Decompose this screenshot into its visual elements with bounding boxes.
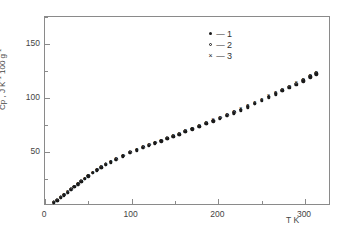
data-point: × (294, 80, 299, 85)
data-point: × (177, 131, 182, 136)
data-point: × (114, 156, 119, 161)
data-point: × (140, 144, 145, 149)
data-point: × (314, 69, 319, 74)
data-point: × (190, 125, 195, 130)
data-point: × (159, 137, 164, 142)
data-point: × (165, 135, 170, 140)
data-point: × (245, 103, 250, 108)
legend-entry-3: × — 3 (206, 50, 232, 61)
data-point: × (197, 123, 202, 128)
x-tick-label: 0 (42, 209, 47, 219)
data-point: × (266, 93, 271, 98)
data-point: × (238, 106, 243, 111)
data-point: × (211, 117, 216, 122)
y-tick-label: 150 (26, 38, 40, 48)
y-axis-title-prefix: Cp , J K (0, 82, 7, 110)
data-point: × (301, 76, 306, 81)
data-point: × (134, 146, 139, 151)
y-axis-title: Cp , J K-1 100 g-1 (0, 49, 7, 110)
legend-entry-1: — 1 (206, 28, 232, 39)
series-3: ××××××××××××××××××××××××××××××××××××××××… (45, 17, 329, 204)
y-axis-title-exp2: -1 (0, 49, 2, 54)
data-point: × (225, 111, 230, 116)
data-point: × (259, 96, 264, 101)
legend-label-3: 3 (227, 51, 232, 61)
chart-figure: ××××××××××××××××××××××××××××××××××××××××… (0, 0, 350, 245)
x-tick-label: 100 (124, 209, 138, 219)
y-axis-title-exp1: -1 (0, 76, 2, 81)
data-point: × (183, 128, 188, 133)
data-point: × (147, 142, 152, 147)
data-point: × (218, 114, 223, 119)
legend-dash: — (215, 40, 226, 50)
data-point: × (308, 72, 313, 77)
legend-label-1: 1 (227, 29, 232, 39)
data-point: × (252, 99, 257, 104)
data-point: × (171, 133, 176, 138)
data-point: × (121, 152, 126, 157)
legend-entry-2: — 2 (206, 39, 232, 50)
y-tick-label: 50 (31, 146, 40, 156)
open-circle-icon (206, 40, 215, 49)
legend-dash: — (215, 51, 226, 61)
y-axis-title-mid: 100 g (0, 54, 7, 76)
data-point: × (287, 83, 292, 88)
filled-circle-icon (206, 29, 215, 38)
legend-dash: — (215, 29, 226, 39)
legend-label-2: 2 (227, 40, 232, 50)
data-point: × (127, 149, 132, 154)
data-point: × (273, 90, 278, 95)
data-point: × (153, 139, 158, 144)
cross-icon: × (206, 51, 215, 60)
data-point: × (280, 86, 285, 91)
data-point: × (204, 120, 209, 125)
x-tick-label: 300 (297, 209, 311, 219)
y-tick-label: 100 (26, 92, 40, 102)
plot-area: ××××××××××××××××××××××××××××××××××××××××… (44, 16, 330, 205)
x-tick-label: 200 (210, 209, 224, 219)
chart-legend: — 1 — 2 × — 3 (206, 28, 232, 61)
data-point: × (231, 109, 236, 114)
